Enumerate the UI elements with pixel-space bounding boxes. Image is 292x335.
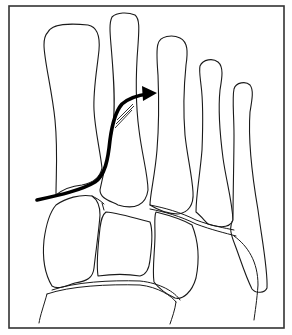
fifth-metatarsal <box>231 83 267 293</box>
foot-bone-diagram <box>0 0 292 335</box>
lateral-tarsal-outline <box>170 302 176 324</box>
third-metatarsal <box>150 36 193 214</box>
arrow-head-icon <box>142 86 157 101</box>
fourth-metatarsal <box>196 60 233 227</box>
navicular-outline <box>39 294 47 323</box>
proximal-tarsal-line-inner <box>47 285 176 302</box>
diagram-canvas <box>0 0 292 335</box>
second-metatarsal <box>100 13 148 207</box>
medial-cuneiform <box>43 195 100 287</box>
intermediate-cuneiform <box>97 212 152 276</box>
first-metatarsal <box>44 24 102 195</box>
